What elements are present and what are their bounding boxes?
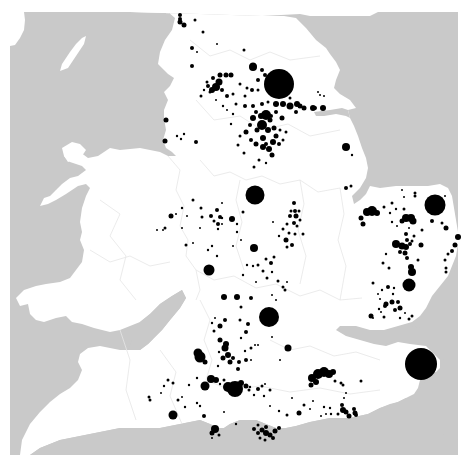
map-symbol: [244, 384, 249, 389]
map-symbol: [262, 270, 265, 273]
map-symbol: [274, 110, 278, 114]
map-symbol: [352, 407, 356, 411]
map-symbol: [235, 423, 237, 425]
map-symbol: [309, 408, 311, 410]
map-symbol: [257, 89, 260, 92]
map-symbol: [414, 195, 417, 198]
map-symbol: [244, 330, 248, 334]
map-symbol: [313, 106, 317, 110]
map-symbol: [196, 402, 198, 404]
map-symbol: [218, 73, 223, 78]
map-symbol: [213, 220, 216, 223]
map-symbol: [271, 271, 273, 273]
map-symbol: [444, 259, 447, 262]
map-symbol: [229, 73, 234, 78]
map-symbol: [249, 63, 257, 71]
map-symbol: [248, 389, 251, 392]
map-symbol: [271, 294, 273, 296]
map-symbol: [444, 195, 446, 197]
map-symbol: [309, 383, 314, 388]
map-symbol: [223, 379, 226, 382]
map-symbol: [181, 227, 183, 229]
map-symbol: [211, 245, 213, 247]
map-symbol: [223, 382, 233, 392]
map-symbol: [216, 255, 218, 257]
map-symbol: [206, 81, 209, 84]
map-symbol: [239, 83, 242, 86]
map-symbol: [280, 116, 285, 121]
map-symbol: [396, 225, 398, 227]
map-symbol: [243, 49, 246, 52]
map-symbol: [337, 413, 340, 416]
map-symbol: [201, 216, 204, 219]
map-symbol: [347, 414, 352, 419]
map-symbol: [265, 258, 268, 261]
map-symbol: [266, 146, 272, 152]
map-symbol: [252, 427, 256, 431]
map-symbol: [223, 341, 229, 347]
map-symbol: [164, 227, 167, 230]
map-symbol: [253, 166, 256, 169]
map-symbol: [255, 128, 260, 133]
map-symbol: [330, 413, 332, 415]
map-symbol: [231, 356, 235, 360]
map-symbol: [344, 186, 348, 190]
map-symbol: [232, 93, 235, 96]
map-symbol: [182, 23, 187, 28]
map-symbol: [323, 406, 325, 408]
map-symbol: [225, 94, 229, 98]
map-symbol: [379, 298, 381, 300]
map-symbol: [405, 238, 409, 242]
map-symbol: [325, 413, 327, 415]
map-symbol: [240, 306, 243, 309]
map-symbol: [444, 226, 449, 231]
map-symbol: [294, 110, 298, 114]
map-symbol: [202, 414, 206, 418]
map-symbol: [363, 208, 371, 216]
map-symbol: [255, 281, 257, 283]
map-symbol: [344, 410, 349, 415]
map-symbol: [259, 437, 262, 440]
map-symbol: [206, 84, 210, 88]
map-symbol: [282, 228, 285, 231]
map-symbol: [320, 105, 326, 111]
map-symbol: [258, 159, 261, 162]
map-symbol: [425, 195, 446, 216]
map-symbol: [386, 285, 390, 289]
map-symbol: [254, 142, 259, 147]
map-symbol: [252, 265, 254, 267]
map-symbol: [218, 434, 221, 437]
map-symbol: [215, 99, 217, 101]
map-symbol: [250, 347, 253, 350]
map-symbol: [246, 264, 248, 266]
map-symbol: [167, 379, 170, 382]
map-symbol: [263, 395, 265, 397]
map-symbol: [249, 138, 253, 142]
map-symbol: [209, 214, 213, 218]
map-symbol: [298, 210, 301, 213]
map-symbol: [264, 383, 266, 385]
map-symbol: [286, 414, 289, 417]
map-symbol: [216, 43, 218, 45]
map-symbol: [391, 202, 394, 205]
map-symbol: [342, 384, 345, 387]
map-symbol: [269, 405, 271, 407]
map-symbol: [269, 261, 273, 265]
map-symbol: [203, 360, 208, 365]
map-symbol: [329, 407, 331, 409]
map-symbol: [243, 152, 246, 155]
map-symbol: [240, 239, 242, 241]
map-symbol: [242, 274, 244, 276]
page-margin-bottom: [0, 455, 470, 464]
map-symbol: [293, 209, 297, 213]
map-symbol: [181, 396, 183, 398]
map-symbol: [272, 126, 277, 131]
map-symbol: [221, 294, 227, 300]
map-symbol: [162, 229, 164, 231]
map-symbol: [248, 123, 252, 127]
map-symbol: [200, 95, 203, 98]
map-symbol: [445, 271, 448, 274]
map-symbol: [266, 277, 269, 280]
map-symbol: [282, 139, 285, 142]
map-symbol: [450, 249, 454, 253]
